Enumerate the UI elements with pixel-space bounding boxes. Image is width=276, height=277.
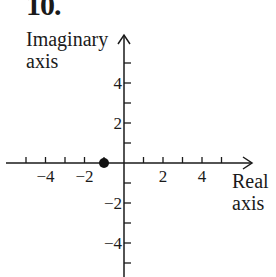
y-tick-label: 2 bbox=[114, 114, 123, 133]
x-tick-label: 4 bbox=[198, 167, 207, 186]
x-tick-label: 2 bbox=[159, 167, 168, 186]
x-tick-label: −4 bbox=[36, 167, 55, 186]
x-tick-label: −2 bbox=[75, 167, 93, 186]
y-tick-label: −2 bbox=[104, 194, 122, 213]
complex-plane: −4 −2 2 4 4 2 −2 −4 bbox=[0, 0, 276, 277]
plotted-point bbox=[99, 158, 109, 168]
y-tick-label: 4 bbox=[114, 74, 123, 93]
y-tick-label: −4 bbox=[104, 234, 123, 253]
